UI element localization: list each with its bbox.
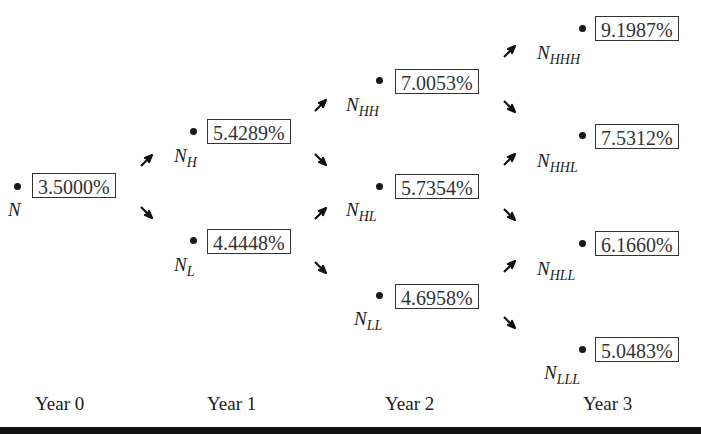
arrow-down-right-icon xyxy=(139,205,153,219)
arrow-down-right-icon xyxy=(502,315,516,329)
arrow-up-right-icon xyxy=(502,153,516,167)
node-label-N: N xyxy=(8,199,21,225)
node-dot xyxy=(376,183,383,190)
year-label-3: Year 3 xyxy=(583,393,632,415)
node-dot xyxy=(579,346,586,353)
rate-box-NL: 4.4448% xyxy=(207,229,291,254)
rate-box-N: 3.5000% xyxy=(32,173,116,198)
node-label-NHL: NHL xyxy=(346,199,377,225)
node-dot xyxy=(579,240,586,247)
bottom-divider xyxy=(0,427,701,434)
rate-box-NHHH: 9.1987% xyxy=(595,16,679,41)
node-label-NHHL: NHHL xyxy=(537,150,578,176)
arrow-up-right-icon xyxy=(313,207,327,221)
arrow-up-right-icon xyxy=(502,260,516,274)
node-label-NHHH: NHHH xyxy=(537,42,580,68)
node-label-NHLL: NHLL xyxy=(537,258,575,284)
node-dot xyxy=(190,128,197,135)
node-dot xyxy=(376,292,383,299)
diagram-title xyxy=(0,0,701,6)
arrow-down-right-icon xyxy=(313,260,327,274)
rate-box-NLL: 4.6958% xyxy=(395,284,479,309)
year-label-1: Year 1 xyxy=(207,393,256,415)
node-dot xyxy=(579,132,586,139)
rate-box-NHH: 7.0053% xyxy=(395,69,479,94)
node-label-NL: NL xyxy=(174,254,194,280)
node-label-NLL: NLL xyxy=(354,308,382,334)
arrow-down-right-icon xyxy=(502,99,516,113)
year-label-0: Year 0 xyxy=(35,393,84,415)
arrow-down-right-icon xyxy=(313,152,327,166)
arrow-up-right-icon xyxy=(313,99,327,113)
rate-box-NHHL: 7.5312% xyxy=(595,124,679,149)
node-dot xyxy=(376,77,383,84)
rate-box-NHL: 5.7354% xyxy=(395,174,479,199)
arrow-up-right-icon xyxy=(139,154,153,168)
node-dot xyxy=(579,25,586,32)
rate-box-NH: 5.4289% xyxy=(207,119,291,144)
node-dot xyxy=(14,183,21,190)
node-dot xyxy=(190,237,197,244)
year-label-2: Year 2 xyxy=(385,393,434,415)
node-label-NLLL: NLLL xyxy=(544,362,580,388)
arrow-down-right-icon xyxy=(502,207,516,221)
rate-box-NLLL: 5.0483% xyxy=(595,337,679,362)
arrow-up-right-icon xyxy=(502,45,516,59)
node-label-NH: NH xyxy=(174,145,197,171)
node-label-NHH: NHH xyxy=(346,94,379,120)
rate-box-NHLL: 6.1660% xyxy=(595,231,679,256)
